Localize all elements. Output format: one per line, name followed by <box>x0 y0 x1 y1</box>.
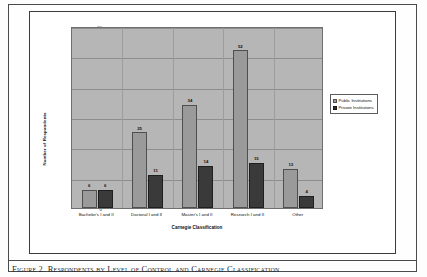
bar-value-label: 25 <box>130 126 150 131</box>
bar-value-label: 13 <box>281 162 301 167</box>
bar-chart: Number of Respondents 0102030405060 6625… <box>30 12 397 255</box>
legend-label-private: Private Institutions <box>339 105 374 110</box>
bar-group: 2511 <box>122 28 172 208</box>
y-axis-title: Number of Respondents <box>42 4 52 94</box>
plot-area: 66251134145215134 <box>71 27 323 209</box>
bar-private <box>98 190 113 208</box>
legend-label-public: Public Institutions <box>339 98 372 103</box>
bar-value-label: 4 <box>297 189 317 194</box>
bar-value-label: 52 <box>230 44 250 49</box>
legend-item-public: Public Institutions <box>333 97 374 104</box>
bar-value-label: 14 <box>196 159 216 164</box>
x-axis-title: Carnegie Classification <box>71 225 323 230</box>
figure-caption: Figure 2. Respondents by Level of Contro… <box>12 264 415 277</box>
bar-value-label: 15 <box>246 156 266 161</box>
bar-value-label: 6 <box>95 183 115 188</box>
x-tick-label: Other <box>266 212 330 217</box>
chart-legend: Public Institutions Private Institutions <box>330 94 378 114</box>
bar-private <box>198 166 213 208</box>
bar-private <box>148 175 163 208</box>
bar-group: 134 <box>274 28 324 208</box>
scanned-page: Number of Respondents 0102030405060 6625… <box>0 0 427 277</box>
bar-group: 5215 <box>223 28 273 208</box>
legend-swatch-public-icon <box>333 99 337 103</box>
bar-public <box>233 50 248 208</box>
legend-swatch-private-icon <box>333 106 337 110</box>
bar-series-container: 66251134145215134 <box>72 28 322 208</box>
x-axis-tick-labels: Bachelor's I and IIDoctoral I and IIMast… <box>71 212 323 222</box>
bar-value-label: 34 <box>180 98 200 103</box>
bar-private <box>299 196 314 208</box>
figure-frame: Number of Respondents 0102030405060 6625… <box>29 11 396 254</box>
bar-public <box>182 105 197 208</box>
bar-group: 3414 <box>173 28 223 208</box>
bar-value-label: 11 <box>146 168 166 173</box>
bar-group: 66 <box>72 28 122 208</box>
legend-item-private: Private Institutions <box>333 104 374 111</box>
caption-divider <box>8 260 417 261</box>
bar-public <box>82 190 97 208</box>
bar-public <box>283 169 298 208</box>
bar-private <box>249 163 264 209</box>
